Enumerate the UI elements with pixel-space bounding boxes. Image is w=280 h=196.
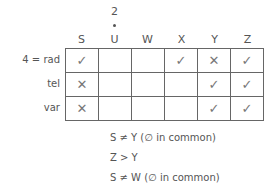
row-label-var: var (44, 102, 60, 113)
row-label-tel: tel (47, 78, 60, 89)
cell-rad-w (132, 49, 165, 73)
cell-rad-z: ✓ (231, 49, 264, 73)
column-annotation-u: 2 (98, 5, 131, 18)
column-header-z: Z (231, 33, 264, 46)
grid-row-var: ✕ ✓ ✓ (66, 97, 264, 121)
deduction-notes: S ≠ Y (∅ in common) Z > Y S ≠ W (∅ in co… (110, 130, 220, 190)
column-header-w: W (131, 33, 164, 46)
cell-tel-y: ✓ (198, 73, 231, 97)
cell-tel-w (132, 73, 165, 97)
cell-tel-s: ✕ (66, 73, 99, 97)
cell-rad-y: ✕ (198, 49, 231, 73)
column-annotation-dot (113, 24, 116, 27)
cell-var-y: ✓ (198, 97, 231, 121)
cell-var-w (132, 97, 165, 121)
logic-grid: ✓ ✓ ✕ ✓ ✕ ✓ ✓ ✕ ✓ ✓ (65, 48, 264, 121)
cell-var-z: ✓ (231, 97, 264, 121)
note-s-not-y: S ≠ Y (∅ in common) (110, 130, 220, 150)
cell-rad-u (99, 49, 132, 73)
note-z-greater-y: Z > Y (110, 150, 220, 170)
row-label-rad: 4 = rad (22, 54, 60, 65)
column-header-y: Y (198, 33, 231, 46)
cell-tel-u (99, 73, 132, 97)
cell-rad-s: ✓ (66, 49, 99, 73)
cell-tel-x (165, 73, 198, 97)
grid-row-rad: ✓ ✓ ✕ ✓ (66, 49, 264, 73)
note-s-not-w: S ≠ W (∅ in common) (110, 170, 220, 190)
cell-var-u (99, 97, 132, 121)
cell-rad-x: ✓ (165, 49, 198, 73)
cell-var-s: ✕ (66, 97, 99, 121)
column-header-s: S (65, 33, 98, 46)
cell-tel-z: ✓ (231, 73, 264, 97)
column-header-x: X (165, 33, 198, 46)
grid-row-tel: ✕ ✓ ✓ (66, 73, 264, 97)
cell-var-x (165, 97, 198, 121)
column-header-u: U (98, 33, 131, 46)
